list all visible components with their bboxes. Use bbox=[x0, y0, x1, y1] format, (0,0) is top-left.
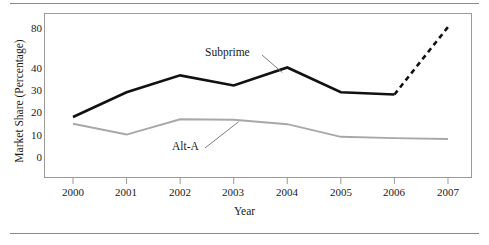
x-axis-tick-marks bbox=[73, 178, 448, 184]
figure-container: 80 40 30 20 10 0 Market Share (Percentag… bbox=[0, 0, 489, 245]
annotation-leader-lines bbox=[205, 55, 282, 148]
series-label-subprime: Subprime bbox=[205, 46, 250, 58]
series-label-alt-a: Alt-A bbox=[172, 140, 199, 152]
chart-plot-area bbox=[0, 0, 489, 245]
data-series-layer bbox=[73, 27, 448, 139]
